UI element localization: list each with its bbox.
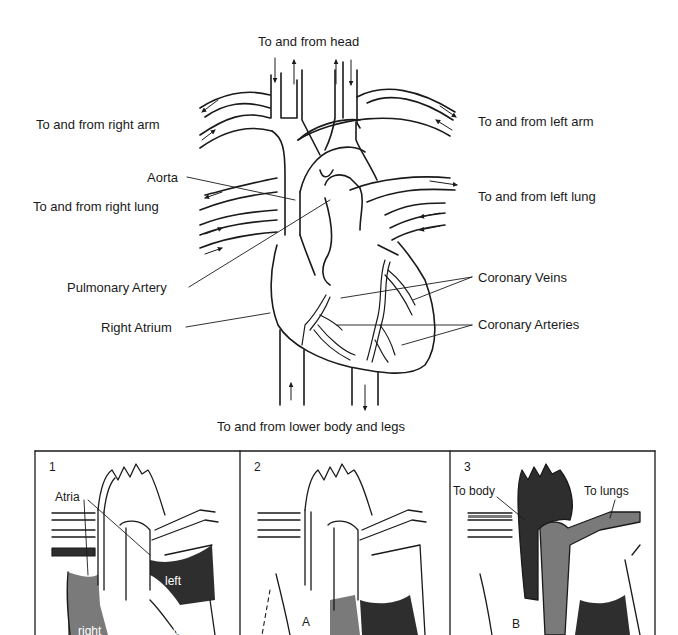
label-left-arm: To and from left arm <box>478 115 594 128</box>
label-right-arm: To and from right arm <box>36 118 160 131</box>
label-coronary-arteries: Coronary Arteries <box>478 318 579 331</box>
label-lower-body: To and from lower body and legs <box>217 420 405 433</box>
heart-diagram-figure: To and from head To and from right arm T… <box>0 0 678 635</box>
panel-1-label-left-ventricle: left <box>173 627 189 635</box>
head-vessels <box>271 58 360 155</box>
label-right-atrium: Right Atrium <box>101 321 172 334</box>
panel-1-label-atria: Atria <box>55 491 80 503</box>
right-arm-vessels <box>200 92 272 148</box>
panel-3-label-to-body: To body <box>453 485 495 497</box>
label-right-lung: To and from right lung <box>33 200 159 213</box>
label-left-lung: To and from left lung <box>478 190 596 203</box>
label-pulmonary-artery: Pulmonary Artery <box>67 281 167 294</box>
panel-1-label-right-atrium: right <box>78 625 101 635</box>
panel-3-label-to-lungs: To lungs <box>584 485 629 497</box>
label-coronary-veins: Coronary Veins <box>478 271 567 284</box>
panel-2-label-a: A <box>302 616 310 628</box>
panel-3-label-b: B <box>512 618 520 630</box>
left-lung-vessels <box>350 177 457 240</box>
panel-1-number: 1 <box>49 461 56 473</box>
coronary-vessels <box>302 260 415 362</box>
heart-body <box>271 188 435 373</box>
label-aorta: Aorta <box>147 171 178 184</box>
panel-2-number: 2 <box>254 461 261 473</box>
right-lung-vessels <box>200 178 277 254</box>
panel-3-number: 3 <box>464 461 471 473</box>
panel-1-label-left-atrium: left <box>165 575 181 587</box>
left-arm-vessels <box>298 89 456 140</box>
panel-2-drawing <box>258 464 426 635</box>
label-head: To and from head <box>258 35 359 48</box>
